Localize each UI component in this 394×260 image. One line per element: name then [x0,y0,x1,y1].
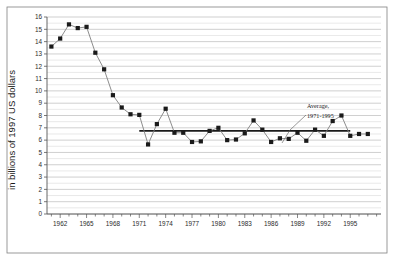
x-tick-label: 1989 [290,220,305,227]
data-point-marker [172,131,176,135]
data-point-marker [102,67,106,71]
chart-container: 012345678910111213141516 196219651968197… [0,0,394,260]
data-point-marker [216,126,220,130]
data-point-marker [49,44,53,48]
x-tick-label: 1983 [238,220,253,227]
data-point-marker [199,139,203,143]
x-tick-label: 1992 [317,220,332,227]
y-tick-label: 9 [38,99,42,106]
line-chart: 012345678910111213141516 196219651968197… [0,0,394,260]
y-tick-label: 11 [35,75,42,82]
data-point-marker [190,140,194,144]
y-tick-label: 6 [38,136,42,143]
data-point-marker [155,122,159,126]
data-point-marker [128,112,132,116]
data-point-marker [208,129,212,133]
data-point-marker [120,105,124,109]
data-point-marker [111,93,115,97]
y-tick-label: 7 [38,124,42,131]
data-point-marker [278,136,282,140]
x-tick-label: 1986 [264,220,279,227]
data-point-marker [295,131,299,135]
average-annotation-line1: Average, [307,102,329,109]
y-tick-label: 2 [38,186,42,193]
data-point-marker [84,25,88,29]
x-tick-label: 1962 [53,220,68,227]
data-point-marker [146,142,150,146]
data-point-marker [58,36,62,40]
data-point-marker [357,132,361,136]
data-point-marker [164,107,168,111]
data-point-marker [287,137,291,141]
data-point-marker [251,118,255,122]
data-point-marker [234,137,238,141]
data-point-marker [313,128,317,132]
x-tick-label: 1971 [132,220,147,227]
y-tick-label: 3 [38,173,42,180]
y-tick-label: 15 [35,26,43,33]
data-point-marker [269,140,273,144]
x-tick-label: 1977 [185,220,200,227]
x-tick-label: 1965 [79,220,94,227]
y-tick-label: 16 [35,13,43,20]
x-tick-label: 1968 [106,220,121,227]
data-point-marker [225,138,229,142]
data-point-marker [322,134,326,138]
data-point-marker [348,134,352,138]
y-axis-label: in billions of 1997 US dollars [6,70,17,190]
data-point-marker [76,26,80,30]
data-point-marker [137,113,141,117]
data-point-marker [331,119,335,123]
x-tick-label: 1980 [211,220,226,227]
data-point-marker [93,51,97,55]
data-point-marker [366,132,370,136]
y-tick-label: 10 [35,87,43,94]
x-tick-label: 1995 [343,220,358,227]
y-tick-label: 12 [35,63,43,70]
data-point-marker [304,139,308,143]
x-tick-label: 1974 [159,220,174,227]
average-annotation-line2: 1971-1995 [307,112,334,119]
y-tick-label: 14 [35,38,43,45]
y-tick-label: 0 [38,210,42,217]
data-point-marker [339,113,343,117]
y-tick-label: 5 [38,149,42,156]
y-tick-label: 13 [35,50,43,57]
y-tick-label: 1 [38,198,42,205]
data-point-marker [260,128,264,132]
y-tick-label: 4 [38,161,42,168]
data-point-marker [243,131,247,135]
data-point-marker [181,131,185,135]
y-tick-label: 8 [38,112,42,119]
data-point-marker [67,22,71,26]
